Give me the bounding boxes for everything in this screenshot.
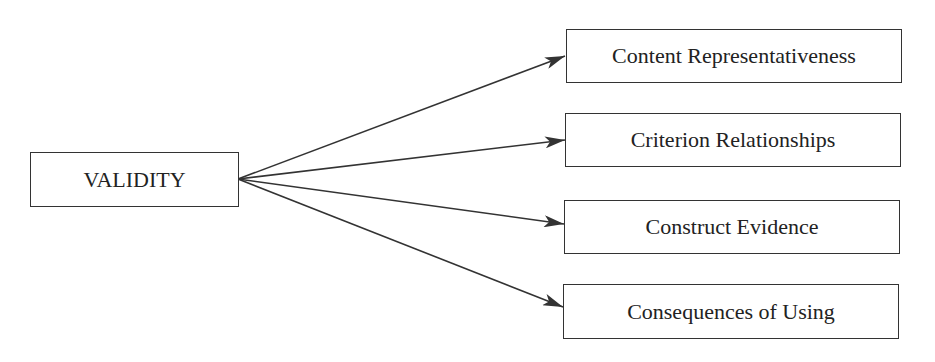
content-representativeness-box: Content Representativeness [566, 29, 902, 83]
construct-evidence-label: Construct Evidence [646, 214, 819, 240]
consequences-of-using-box: Consequences of Using [563, 284, 899, 339]
arrow-to-construct [238, 179, 564, 224]
arrow-to-consequences [238, 179, 563, 307]
content-representativeness-label: Content Representativeness [612, 43, 856, 69]
arrow-to-criterion [238, 140, 565, 179]
consequences-of-using-label: Consequences of Using [627, 299, 835, 325]
validity-label: VALIDITY [83, 167, 185, 193]
validity-box: VALIDITY [30, 152, 239, 207]
arrow-to-content [238, 56, 565, 179]
criterion-relationships-label: Criterion Relationships [631, 127, 836, 153]
criterion-relationships-box: Criterion Relationships [565, 113, 901, 167]
construct-evidence-box: Construct Evidence [564, 200, 900, 254]
